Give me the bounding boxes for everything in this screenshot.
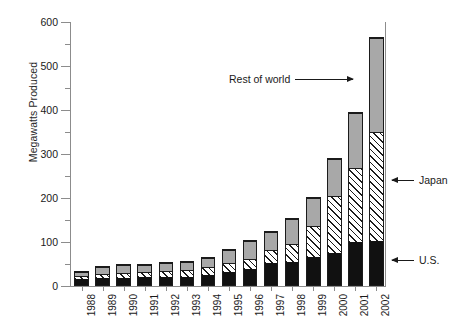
annotation-rest-of-world-label: Rest of world — [229, 73, 290, 85]
bar-1996 — [243, 240, 258, 286]
x-tick-label-2000: 2000 — [338, 294, 349, 316]
x-tick-label-1989: 1989 — [107, 294, 118, 316]
bar-segment-japan — [286, 244, 299, 262]
plot-area: 0100200300400500600 19881989199019911992… — [70, 22, 386, 286]
bar-segment-rest-of-world — [96, 267, 109, 274]
annotation-us: U.S. — [392, 254, 439, 266]
x-tick-label-1995: 1995 — [233, 294, 244, 316]
annotation-japan: Japan — [392, 174, 448, 186]
bar-segment-rest-of-world — [181, 262, 194, 269]
bar-1993 — [180, 261, 195, 286]
bar-segment-japan — [223, 263, 236, 272]
bar-segment-rest-of-world — [349, 113, 362, 167]
bar-segment-japan — [181, 270, 194, 277]
bar-segment-u-s — [75, 279, 88, 285]
bar-segment-rest-of-world — [160, 263, 173, 271]
arrow-left-icon — [392, 180, 414, 181]
bar-segment-rest-of-world — [286, 219, 299, 244]
x-tick — [271, 286, 272, 291]
y-tick-major — [61, 110, 70, 111]
bar-segment-u-s — [265, 263, 278, 285]
bar-segment-rest-of-world — [328, 159, 341, 196]
bar-segment-japan — [307, 226, 320, 258]
x-tick-label-2001: 2001 — [359, 294, 370, 316]
x-tick-label-1999: 1999 — [317, 294, 328, 316]
x-tick — [334, 286, 335, 291]
y-tick-major — [61, 242, 70, 243]
x-tick — [187, 286, 188, 291]
bar-2001 — [348, 112, 363, 286]
y-tick-major — [61, 154, 70, 155]
x-tick — [124, 286, 125, 291]
bar-segment-japan — [328, 196, 341, 252]
x-tick — [208, 286, 209, 291]
x-tick — [229, 286, 230, 291]
bar-1999 — [306, 197, 321, 286]
x-tick — [103, 286, 104, 291]
bar-segment-japan — [265, 250, 278, 263]
annotation-japan-label: Japan — [419, 174, 448, 186]
x-tick — [82, 286, 83, 291]
bar-segment-japan — [244, 259, 257, 269]
bar-segment-u-s — [286, 262, 299, 285]
bar-segment-rest-of-world — [370, 38, 383, 132]
y-tick-major — [61, 286, 70, 287]
bar-segment-japan — [370, 132, 383, 241]
bar-segment-rest-of-world — [138, 265, 151, 272]
bar-2000 — [327, 158, 342, 286]
bar-1988 — [74, 271, 89, 286]
bar-segment-u-s — [160, 277, 173, 285]
x-tick — [313, 286, 314, 291]
bar-1998 — [285, 218, 300, 286]
bar-segment-u-s — [181, 277, 194, 285]
y-tick-label: 200 — [40, 192, 58, 204]
bar-segment-u-s — [223, 272, 236, 285]
bar-segment-u-s — [96, 278, 109, 285]
bar-segment-rest-of-world — [202, 258, 215, 267]
x-tick — [145, 286, 146, 291]
bar-segment-u-s — [328, 253, 341, 285]
bar-1997 — [264, 231, 279, 286]
x-tick-label-1994: 1994 — [212, 294, 223, 316]
x-tick-label-1990: 1990 — [128, 294, 139, 316]
bar-segment-rest-of-world — [223, 250, 236, 264]
y-tick-label: 600 — [40, 16, 58, 28]
y-tick-major — [61, 198, 70, 199]
bar-segment-rest-of-world — [265, 232, 278, 250]
arrow-left-icon — [392, 260, 414, 261]
stacked-bar-chart: Megawatts Produced 0100200300400500600 1… — [0, 0, 458, 331]
x-tick-label-1997: 1997 — [275, 294, 286, 316]
bar-segment-u-s — [138, 277, 151, 285]
bar-segment-rest-of-world — [244, 241, 257, 258]
y-tick-label: 100 — [40, 236, 58, 248]
x-tick-label-1993: 1993 — [191, 294, 202, 316]
annotation-us-label: U.S. — [419, 254, 439, 266]
y-tick-label: 400 — [40, 104, 58, 116]
x-tick — [292, 286, 293, 291]
x-axis-line — [70, 286, 386, 287]
arrow-right-icon — [295, 79, 353, 80]
bar-1994 — [201, 257, 216, 286]
bar-1990 — [116, 264, 131, 286]
annotation-rest-of-world: Rest of world — [229, 73, 353, 85]
x-tick-label-1996: 1996 — [254, 294, 265, 316]
x-tick — [355, 286, 356, 291]
bar-1992 — [159, 262, 174, 286]
bar-1995 — [222, 249, 237, 286]
y-tick-major — [61, 22, 70, 23]
y-tick-label: 300 — [40, 148, 58, 160]
bar-1989 — [95, 266, 110, 286]
x-tick — [166, 286, 167, 291]
bar-segment-u-s — [307, 257, 320, 285]
x-tick-label-2002: 2002 — [380, 294, 391, 316]
x-tick — [376, 286, 377, 291]
y-tick-label: 0 — [52, 280, 58, 292]
bar-2002 — [369, 37, 384, 286]
x-tick-label-1988: 1988 — [86, 294, 97, 316]
x-tick — [250, 286, 251, 291]
bar-1991 — [137, 264, 152, 286]
bar-segment-japan — [349, 168, 362, 243]
bar-segment-japan — [202, 267, 215, 275]
x-tick-label-1992: 1992 — [170, 294, 181, 316]
bar-segment-u-s — [202, 275, 215, 285]
